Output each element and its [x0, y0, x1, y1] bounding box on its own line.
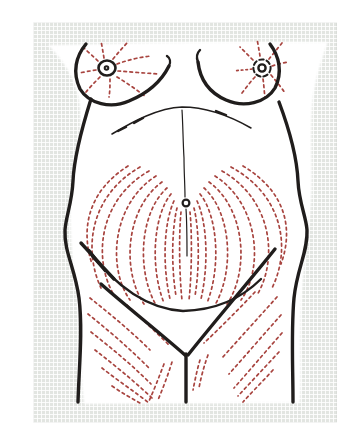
page-background	[0, 0, 354, 444]
torso-skin-tension-illustration	[0, 0, 354, 444]
